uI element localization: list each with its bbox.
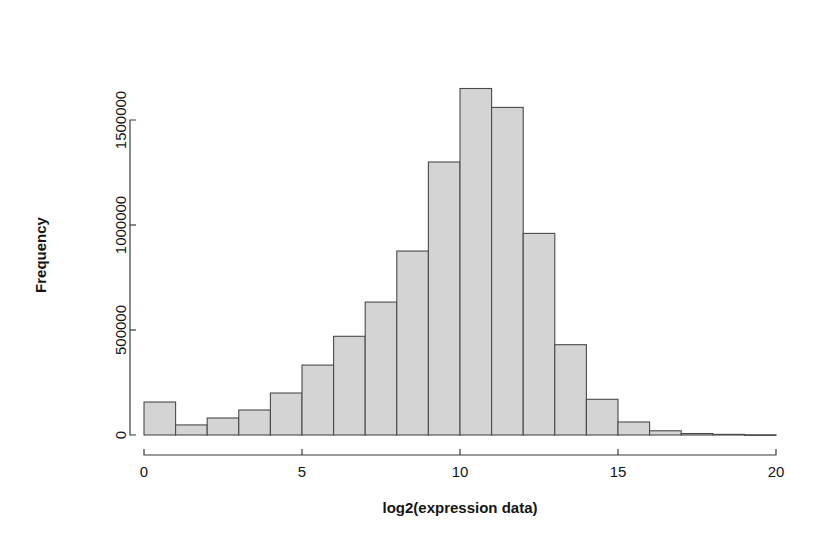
histogram-bar — [397, 251, 429, 435]
x-axis-tick-label: 10 — [452, 463, 469, 480]
x-axis-title: log2(expression data) — [382, 499, 537, 516]
histogram-bar — [681, 434, 713, 435]
histogram-bar — [744, 435, 776, 436]
y-axis-title: Frequency — [32, 216, 49, 293]
histogram-bar — [618, 422, 650, 435]
histogram-bar — [334, 336, 366, 435]
histogram-svg: 050000010000001500000 05101520 Frequency… — [0, 0, 813, 549]
histogram-bar — [586, 399, 618, 435]
x-axis: 05101520 — [140, 449, 785, 480]
x-axis-tick-label: 20 — [768, 463, 785, 480]
histogram-bar — [492, 107, 524, 435]
histogram-bar — [460, 89, 492, 436]
y-axis-tick-label: 500000 — [112, 305, 129, 355]
x-axis-tick-label: 5 — [298, 463, 306, 480]
histogram-bar — [555, 345, 587, 435]
histogram-bar — [207, 418, 239, 435]
histogram-bar — [713, 434, 745, 435]
histogram-bar — [270, 393, 302, 435]
histogram-bar — [365, 302, 397, 435]
y-axis-tick-label: 0 — [112, 431, 129, 439]
bars-layer — [144, 89, 776, 436]
histogram-bar — [302, 365, 334, 435]
y-axis-tick-label: 1500000 — [112, 91, 129, 149]
histogram-bar — [650, 431, 682, 435]
y-axis: 050000010000001500000 — [112, 91, 137, 439]
histogram-plot: 050000010000001500000 05101520 Frequency… — [0, 0, 813, 549]
histogram-bar — [176, 425, 208, 435]
histogram-bar — [239, 410, 271, 435]
y-axis-line — [130, 120, 136, 435]
histogram-bar — [523, 233, 555, 435]
histogram-bar — [428, 162, 460, 435]
y-axis-tick-label: 1000000 — [112, 196, 129, 254]
histogram-bar — [144, 402, 176, 435]
x-axis-tick-label: 0 — [140, 463, 148, 480]
x-axis-tick-label: 15 — [610, 463, 627, 480]
